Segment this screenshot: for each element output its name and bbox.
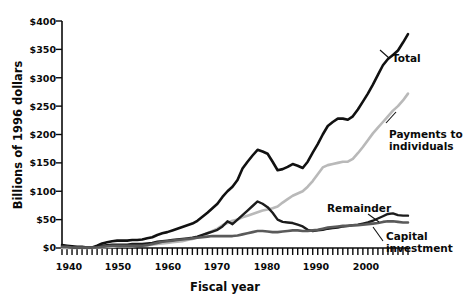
x-tick-label-1980: 1980 — [254, 261, 281, 272]
y-tick-label-100: $100 — [30, 186, 57, 197]
y-tick-label-200: $200 — [30, 129, 57, 140]
y-tick-label-150: $150 — [30, 157, 57, 168]
x-tick-label-1960: 1960 — [155, 261, 182, 272]
y-tick-label-350: $350 — [30, 44, 57, 55]
series-label-capital-line1: Capital — [386, 230, 428, 242]
y-tick-label-300: $300 — [30, 73, 57, 84]
y-tick-label-400: $400 — [30, 16, 57, 27]
y-tick-label-250: $250 — [30, 101, 57, 112]
x-tick-label-1950: 1950 — [105, 261, 132, 272]
x-axis-title: Fiscal year — [190, 280, 260, 294]
series-label-total: Total — [392, 52, 421, 64]
x-tick-label-1970: 1970 — [204, 261, 231, 272]
y-tick-label-0: $0 — [43, 242, 57, 253]
y-axis-title: Billions of 1996 dollars — [11, 61, 25, 210]
series-label-payments-line1: Payments to — [389, 128, 463, 140]
x-tick-label-1990: 1990 — [303, 261, 330, 272]
line-chart: $0 $50 $100 $150 $200 $250 $300 $350 $40… — [0, 0, 464, 300]
chart-container: $0 $50 $100 $150 $200 $250 $300 $350 $40… — [0, 0, 464, 300]
series-label-remainder: Remainder — [327, 202, 392, 214]
x-tick-label-1940: 1940 — [56, 261, 83, 272]
x-tick-label-2000: 2000 — [353, 261, 380, 272]
series-label-capital-line2: investment — [386, 242, 453, 254]
y-tick-label-50: $50 — [36, 214, 56, 225]
series-label-payments-line2: individuals — [389, 140, 454, 152]
